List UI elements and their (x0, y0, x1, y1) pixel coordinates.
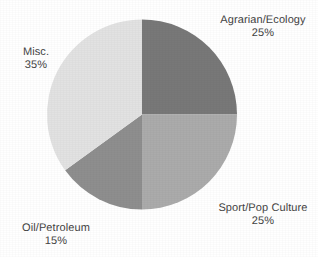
pie-label-misc: Misc. 35% (12, 46, 60, 72)
pie-label-oil-petroleum-name: Oil/Petroleum (8, 222, 104, 235)
pie-label-oil-petroleum-percent: 15% (8, 235, 104, 248)
pie-slice-sport-pop-culture[interactable] (142, 115, 237, 210)
pie-label-sport-pop-culture: Sport/Pop Culture 25% (212, 202, 314, 228)
pie-slices (47, 20, 237, 210)
pie-label-oil-petroleum: Oil/Petroleum 15% (8, 222, 104, 248)
pie-label-sport-pop-culture-name: Sport/Pop Culture (212, 202, 314, 215)
pie-label-agrarian-ecology-name: Agrarian/Ecology (212, 14, 314, 27)
pie-label-sport-pop-culture-percent: 25% (212, 215, 314, 228)
pie-label-agrarian-ecology-percent: 25% (212, 27, 314, 40)
pie-chart: Agrarian/Ecology 25% Sport/Pop Culture 2… (0, 0, 318, 257)
pie-label-misc-name: Misc. (12, 46, 60, 59)
pie-label-agrarian-ecology: Agrarian/Ecology 25% (212, 14, 314, 40)
pie-label-misc-percent: 35% (12, 59, 60, 72)
